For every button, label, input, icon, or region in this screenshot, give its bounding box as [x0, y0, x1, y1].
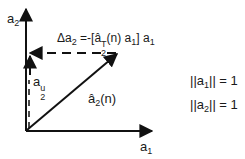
eq-term-rest: (n) a — [107, 31, 132, 45]
eq-close-sub: 1 — [150, 37, 155, 47]
estimate-vector-label: â2(n) — [88, 92, 116, 108]
a2u-sub: 2 — [40, 93, 45, 102]
eq-sign: =-[ — [77, 31, 95, 45]
a1-label-sub: 1 — [147, 146, 152, 156]
norm-a2-prefix: ||a — [190, 97, 204, 112]
a2u-scripts: u2 — [40, 84, 45, 101]
a2u-base: a — [33, 74, 40, 89]
vector-diagram: a2 a1 Δa2 =-[âT2(n) a1] a1 au2 â2(n) ||a… — [0, 0, 245, 159]
norm-a1-suffix: || = 1 — [209, 73, 238, 88]
norm-a1-constraint: ||a1|| = 1 — [190, 74, 238, 90]
eq-close: ] a — [136, 31, 149, 45]
eq-lhs: Δa — [57, 31, 72, 45]
norm-a2-constraint: ||a2|| = 1 — [190, 98, 238, 114]
estimate-suffix: (n) — [100, 91, 116, 106]
eq-term-sub: 2 — [101, 49, 106, 58]
delta-a2-equation: Δa2 =-[âT2(n) a1] a1 — [57, 32, 155, 57]
a1-axis-label: a1 — [140, 140, 152, 156]
norm-a1-prefix: ||a — [190, 73, 204, 88]
norm-a2-suffix: || = 1 — [209, 97, 238, 112]
a2-label-sub: 2 — [14, 18, 19, 28]
a2-axis-label: a2 — [7, 12, 19, 28]
a2u-label: au2 — [33, 75, 45, 101]
eq-term-base: â — [94, 31, 101, 45]
